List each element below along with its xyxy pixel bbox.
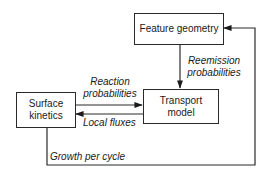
transport-model-label-line2: model bbox=[167, 107, 194, 119]
feature-geometry-label: Feature geometry bbox=[140, 23, 219, 35]
surface-kinetics-label-line2: kinetics bbox=[29, 110, 62, 122]
surface-kinetics-box: Surface kinetics bbox=[16, 92, 76, 128]
local-fluxes-label: Local fluxes bbox=[83, 117, 136, 129]
feature-geometry-box: Feature geometry bbox=[134, 13, 224, 45]
reaction-label-line2: probabilities bbox=[80, 88, 140, 100]
transport-model-box: Transport model bbox=[143, 89, 219, 124]
reemission-label-line1: Reemission bbox=[184, 55, 244, 67]
reemission-label: Reemission probabilities bbox=[184, 55, 244, 79]
transport-model-label-line1: Transport bbox=[160, 95, 202, 107]
surface-kinetics-label-line1: Surface bbox=[29, 98, 63, 110]
reaction-label: Reaction probabilities bbox=[80, 76, 140, 100]
reaction-label-line1: Reaction bbox=[80, 76, 140, 88]
reemission-label-line2: probabilities bbox=[184, 67, 244, 79]
growth-label: Growth per cycle bbox=[50, 151, 125, 163]
